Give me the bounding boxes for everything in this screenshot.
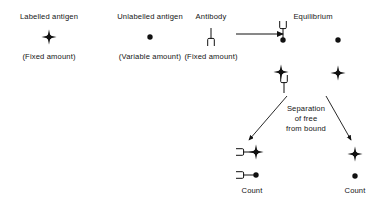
symbol-labelled-antigen <box>42 30 57 45</box>
sublabel-unlabelled-antigen: (Variable amount) <box>119 52 181 61</box>
count-label-bound: Count <box>241 186 262 195</box>
equilibrium-antibody-bound-unlabelled-antigen <box>280 21 287 43</box>
separation-arrow-right <box>326 96 351 140</box>
heading-unlabelled-antigen: Unlabelled antigen <box>117 12 183 21</box>
bound-antibody-bound-labelled-antigen <box>236 145 264 160</box>
equilibrium-free-unlabelled-antigen <box>335 37 340 42</box>
sublabel-labelled-antigen: (Fixed amount) <box>22 52 75 61</box>
symbol-unlabelled-antigen <box>147 34 152 39</box>
equilibrium-free-labelled-antigen <box>331 66 346 81</box>
equilibrium-antibody-bound-labelled-antigen <box>274 65 289 94</box>
free-unlabelled-antigen <box>352 173 357 178</box>
separation-arrow-left <box>249 96 287 140</box>
heading-equilibrium: Equilibrium <box>293 12 332 21</box>
bound-antibody-bound-unlabelled-antigen <box>236 172 259 179</box>
free-labelled-antigen <box>348 147 363 162</box>
heading-labelled-antigen: Labelled antigen <box>20 12 78 21</box>
separation-label-line-1: Separation <box>287 104 325 113</box>
count-label-free: Count <box>344 186 365 195</box>
symbol-antibody <box>208 28 215 46</box>
sublabel-antibody: (Fixed amount) <box>184 52 237 61</box>
separation-label-line-3: from bound <box>286 124 326 133</box>
radioimmunoassay-diagram: Labelled antigen (Fixed amount) Unlabell… <box>0 0 383 204</box>
separation-label-line-2: of free <box>295 114 318 123</box>
diagram-vector-layer <box>0 0 383 204</box>
heading-antibody: Antibody <box>196 12 227 21</box>
